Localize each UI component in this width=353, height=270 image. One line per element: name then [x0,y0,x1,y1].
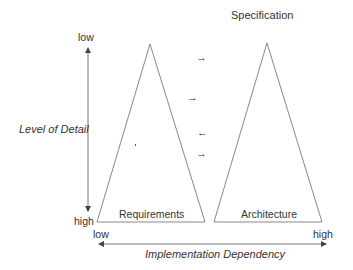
x-axis-left-label: low [93,229,109,240]
diagram-title: Specification [231,10,293,21]
x-axis-label: Implementation Dependency [145,249,285,260]
stray-mark [135,144,136,146]
arrow-right-icon: → [196,148,207,159]
architecture-triangle [214,43,322,222]
architecture-label: Architecture [241,209,297,220]
requirements-triangle [97,44,205,222]
x-axis-right-label: high [313,229,333,240]
arrow-right-icon: → [187,92,198,103]
arrow-right-icon: → [196,52,207,63]
diagram-canvas [0,0,353,270]
y-axis-top-label: low [78,32,94,43]
y-axis-label: Level of Detail [19,124,89,135]
arrow-left-icon: ← [197,127,208,138]
requirements-label: Requirements [119,209,184,220]
y-axis-bottom-label: high [74,216,94,227]
